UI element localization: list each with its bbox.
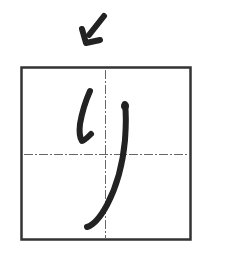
stroke-1 (80, 91, 91, 141)
stroke-order-diagram (0, 0, 249, 261)
arrow-down-left-icon (82, 16, 104, 43)
stroke-2 (87, 104, 126, 227)
